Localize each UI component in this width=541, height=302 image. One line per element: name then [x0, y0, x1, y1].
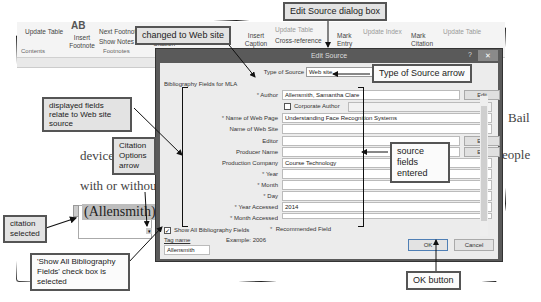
- web-page-field[interactable]: Understanding Face Recognition Systems: [282, 113, 492, 123]
- year-accessed-field[interactable]: 2014: [282, 202, 492, 212]
- tag-name-field[interactable]: Allensmith: [164, 245, 210, 255]
- callout-displayed-fields: displayed fields relate to Web site sour…: [42, 97, 132, 132]
- callout-citation-selected: citation selected: [3, 215, 47, 243]
- tag-name-label: Tag name: [164, 237, 190, 243]
- next-footnote-button[interactable]: Next Footnote: [99, 28, 140, 36]
- insert-caption-button[interactable]: Insert Caption: [243, 32, 269, 48]
- scrollbar-thumb[interactable]: [481, 106, 487, 221]
- callout-citation-options-arrow: Citation Options arrow: [112, 137, 156, 175]
- insert-footnote-icon: AB: [71, 22, 85, 30]
- ok-button[interactable]: OK: [408, 239, 448, 251]
- day-field[interactable]: [282, 191, 492, 201]
- document-text-bail: Bail: [508, 110, 530, 126]
- type-of-source-value: Web site: [309, 69, 332, 75]
- production-company-field[interactable]: Course Technology: [282, 158, 492, 168]
- callout-source-fields-entered: source fields entered: [390, 142, 450, 183]
- help-icon[interactable]: ?: [468, 51, 472, 58]
- citation-text[interactable]: (Allensmith).: [82, 204, 161, 220]
- corporate-author-label: Corporate Author: [294, 103, 340, 109]
- show-notes-button[interactable]: Show Notes: [99, 38, 134, 46]
- month-accessed-field[interactable]: [282, 213, 492, 219]
- callout-edit-source-dialog: Edit Source dialog box: [283, 2, 387, 21]
- contents-group-label: Contents: [21, 48, 45, 54]
- citation-options-arrow-icon[interactable]: ▾: [146, 228, 152, 234]
- fields-right-bracket: [358, 87, 364, 227]
- footnotes-group-label: Footnotes: [103, 48, 130, 54]
- update-table-button[interactable]: Update Table: [25, 28, 63, 36]
- show-all-fields-checkbox[interactable]: ✓: [164, 227, 171, 234]
- bibliography-fields-label: Bibliography Fields for MLA: [164, 81, 237, 87]
- callout-type-of-source-arrow: Type of Source arrow: [372, 64, 472, 83]
- corporate-author-checkbox[interactable]: [284, 103, 291, 110]
- mark-citation-button[interactable]: Mark Citation: [411, 32, 437, 48]
- month-field[interactable]: [282, 180, 492, 190]
- document-text-people: eople: [502, 147, 530, 163]
- cancel-button[interactable]: Cancel: [454, 239, 494, 251]
- year-field[interactable]: [282, 169, 492, 179]
- cross-reference-button[interactable]: Cross-reference: [275, 37, 322, 45]
- update-table-3-button[interactable]: Update Table: [443, 28, 481, 36]
- example-text: Example: 2006: [226, 237, 266, 243]
- callout-changed-to-web-site: changed to Web site: [135, 26, 231, 45]
- dialog-scrollbar[interactable]: [480, 96, 488, 236]
- close-button[interactable]: ✕: [478, 50, 498, 61]
- document-text-with-or-without: with or without: [80, 178, 160, 194]
- fields-left-bracket: [182, 87, 188, 227]
- ruler: [17, 58, 177, 68]
- recommended-field-legend: * Recommended Field: [270, 226, 331, 232]
- author-field[interactable]: Allensmith, Samantha Clare: [282, 90, 460, 100]
- field-label-author: * Author: [180, 92, 278, 98]
- document-text-device: device: [80, 148, 114, 164]
- dialog-title: Edit Source: [156, 49, 502, 63]
- callout-show-all-checkbox: 'Show All Bibliography Fields' check box…: [30, 253, 130, 291]
- update-table-2-button[interactable]: Update Table: [275, 26, 313, 34]
- show-all-fields-label: Show All Bibliography Fields: [174, 227, 249, 233]
- type-of-source-label: Type of Source: [200, 69, 304, 75]
- update-index-button[interactable]: Update Index: [363, 28, 402, 36]
- web-site-field[interactable]: [282, 124, 492, 134]
- citation-handle[interactable]: [73, 205, 79, 217]
- corporate-author-field[interactable]: [348, 102, 492, 112]
- insert-footnote-button[interactable]: Insert Footnote: [67, 34, 97, 50]
- mark-entry-button[interactable]: Mark Entry: [337, 32, 361, 48]
- callout-ok-button: OK button: [406, 271, 461, 290]
